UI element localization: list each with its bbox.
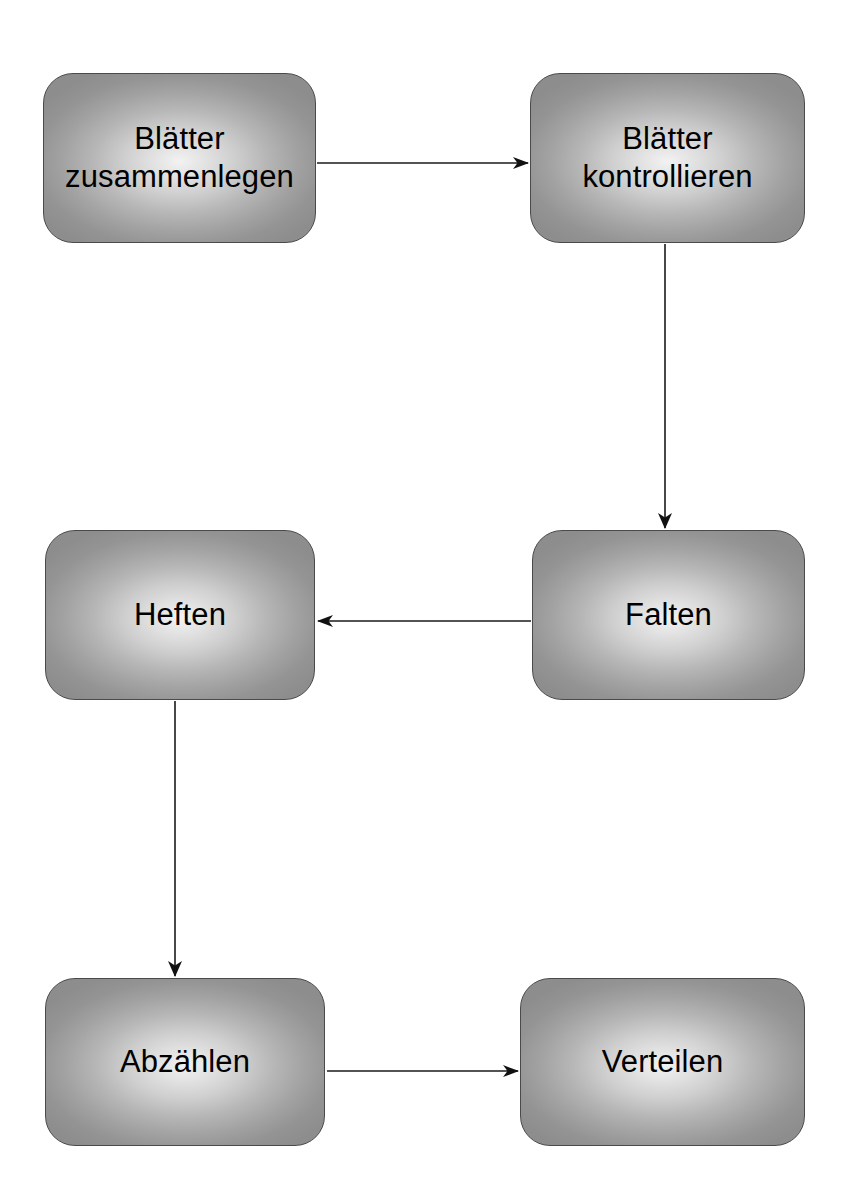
node-label: Heften [124,596,236,634]
node-falten[interactable]: Falten [532,530,805,700]
node-heften[interactable]: Heften [45,530,315,700]
node-label: Falten [615,596,722,634]
node-label: Verteilen [592,1043,734,1081]
node-verteilen[interactable]: Verteilen [520,978,805,1146]
node-label: Blätter kontrollieren [572,120,762,196]
node-abzaehlen[interactable]: Abzählen [45,978,325,1146]
node-label: Blätter zusammenlegen [55,120,304,196]
node-label: Abzählen [110,1043,260,1081]
flowchart-canvas: Blätter zusammenlegen Blätter kontrollie… [0,0,854,1204]
node-blaetter-zusammenlegen[interactable]: Blätter zusammenlegen [43,73,316,243]
node-blaetter-kontrollieren[interactable]: Blätter kontrollieren [530,73,805,243]
